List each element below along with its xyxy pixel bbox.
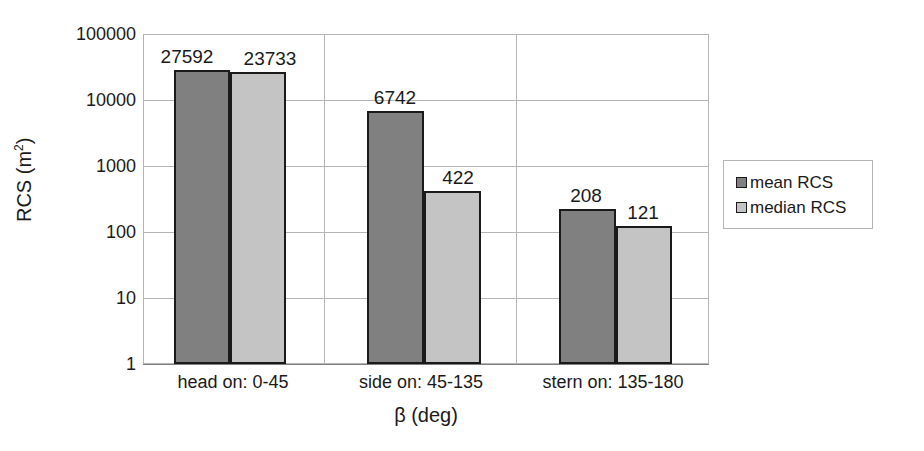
bar-mean-side-on[interactable]	[367, 111, 424, 364]
x-tick-stern-on: stern on: 135-180	[517, 372, 709, 392]
y-axis-title-text: RCS (m	[13, 151, 35, 222]
legend-swatch-icon-median	[736, 202, 747, 213]
x-axis-baseline	[143, 364, 709, 365]
value-label-mean-head-on: 27592	[143, 47, 231, 66]
legend-item-mean-rcs[interactable]: mean RCS	[736, 174, 864, 191]
y-axis-ticks: 100000 10000 1000 100 10 1	[30, 0, 136, 451]
y-tick-100: 100	[36, 223, 136, 241]
value-label-median-side-on: 422	[421, 168, 495, 187]
category-separator-2	[516, 35, 517, 363]
y-axis-title-exponent: 2	[12, 144, 26, 151]
legend-item-median-rcs[interactable]: median RCS	[736, 199, 864, 216]
bar-median-side-on[interactable]	[424, 191, 481, 364]
legend-label-median: median RCS	[750, 199, 846, 216]
y-axis-title: RCS (m2)	[12, 70, 36, 290]
bar-median-head-on[interactable]	[230, 72, 286, 364]
y-tick-100000: 100000	[36, 25, 136, 43]
y-tick-1000: 1000	[36, 157, 136, 175]
bar-median-stern-on[interactable]	[616, 226, 672, 364]
bar-mean-head-on[interactable]	[174, 70, 230, 364]
bar-mean-stern-on[interactable]	[559, 209, 616, 364]
plot-area	[143, 34, 709, 364]
legend: mean RCS median RCS	[723, 160, 873, 229]
value-label-median-stern-on: 121	[606, 203, 680, 222]
x-axis-title: β (deg)	[0, 404, 852, 427]
value-label-median-head-on: 23733	[226, 49, 314, 68]
x-tick-head-on: head on: 0-45	[143, 372, 323, 392]
y-axis-title-paren: )	[13, 138, 35, 145]
y-tick-10000: 10000	[36, 91, 136, 109]
y-tick-1: 1	[36, 355, 136, 373]
rcs-bar-chart: 100000 10000 1000 100 10 1 RCS (m2) 2759…	[0, 0, 924, 451]
legend-label-mean: mean RCS	[750, 174, 833, 191]
category-separator-1	[324, 35, 325, 363]
y-tick-10: 10	[36, 289, 136, 307]
legend-swatch-icon-mean	[736, 177, 747, 188]
x-tick-side-on: side on: 45-135	[325, 372, 517, 392]
value-label-mean-side-on: 6742	[351, 88, 439, 107]
